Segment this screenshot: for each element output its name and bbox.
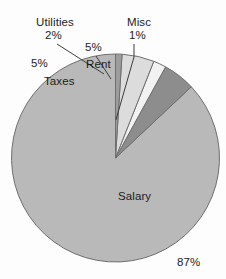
slice-percent-taxes: 5% [31, 58, 48, 70]
slice-label-misc: Misc [127, 17, 151, 29]
slice-label-salary: Salary [118, 191, 151, 203]
pie-chart-figure: Utilities 2% Misc 1% 5% 5% Rent Taxes Sa… [0, 0, 226, 279]
slice-percent-salary: 87% [177, 257, 200, 269]
slice-percent-rent: 5% [85, 42, 102, 54]
slice-label-rent: Rent [86, 59, 111, 71]
slice-percent-utilities: 2% [45, 30, 62, 42]
slice-label-utilities: Utilities [36, 17, 74, 29]
slice-label-taxes: Taxes [44, 76, 75, 88]
pie-chart-graphic [0, 0, 226, 279]
slice-percent-misc: 1% [129, 30, 146, 42]
